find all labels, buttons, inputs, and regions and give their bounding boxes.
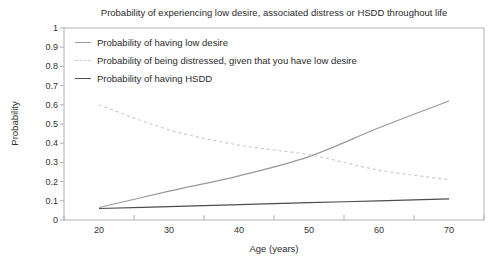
legend-item-hsdd: Probability of having HSDD	[75, 69, 357, 87]
legend: Probability of having low desireProbabil…	[75, 33, 357, 87]
x-tick-label: 20	[84, 224, 114, 236]
legend-line-sample-low-desire	[75, 42, 91, 43]
legend-line-sample-hsdd	[75, 78, 91, 79]
y-tick-label: 0.1	[28, 195, 58, 207]
y-tick-label: 0.8	[28, 60, 58, 72]
y-tick-label: 0.7	[28, 80, 58, 92]
y-tick-label: 0.6	[28, 99, 58, 111]
y-tick-label: 0.4	[28, 137, 58, 149]
legend-label: Probability of having low desire	[97, 37, 228, 48]
x-tick-label: 70	[434, 224, 464, 236]
y-tick-label: 0.9	[28, 41, 58, 53]
chart-canvas: { "figure": { "title": "Probability of e…	[0, 0, 501, 272]
x-axis-title: Age (years)	[64, 243, 484, 254]
x-tick-label: 60	[364, 224, 394, 236]
y-tick-label: 1	[28, 22, 58, 34]
y-tick-label: 0.2	[28, 176, 58, 188]
x-tick-label: 30	[154, 224, 184, 236]
y-tick-label: 0.5	[28, 118, 58, 130]
y-tick-label: 0	[28, 214, 58, 226]
legend-item-low-desire: Probability of having low desire	[75, 33, 357, 51]
legend-label: Probability of being distressed, given t…	[97, 55, 357, 66]
series-line-hsdd	[99, 199, 449, 209]
x-tick-label: 50	[294, 224, 324, 236]
y-tick-label: 0.3	[28, 156, 58, 168]
legend-label: Probability of having HSDD	[97, 73, 212, 84]
legend-line-sample-distressed-given-low-desire	[75, 60, 91, 61]
series-line-distressed-given-low-desire	[99, 105, 449, 180]
x-tick-label: 40	[224, 224, 254, 236]
legend-item-distressed-given-low-desire: Probability of being distressed, given t…	[75, 51, 357, 69]
series-line-low-desire	[99, 101, 449, 208]
